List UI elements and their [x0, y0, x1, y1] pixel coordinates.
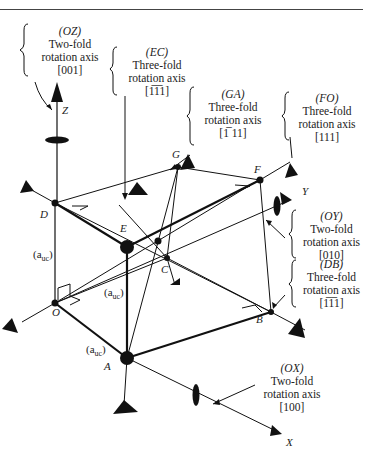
three-fold-symbol — [285, 163, 298, 178]
three-fold-symbol — [51, 82, 63, 102]
three-fold-symbol — [128, 182, 148, 195]
annotation-direction: [1̅1̅1] — [294, 297, 369, 310]
two-fold-symbol-y — [274, 196, 281, 216]
vertex-D — [52, 200, 59, 207]
edge-GF — [178, 167, 260, 180]
diag-DB — [55, 203, 271, 312]
vertex-C — [164, 255, 170, 261]
vertex-label-E: E — [120, 222, 127, 234]
annotation-type: Two-fold — [252, 375, 332, 388]
two-fold-symbol-x — [193, 384, 200, 406]
three-fold-symbol — [288, 318, 305, 338]
annotation-direction: [001] — [30, 64, 110, 77]
vertex-A — [120, 351, 134, 365]
annotation-desc: rotation axis — [294, 236, 369, 249]
edge-label-front: (auc) — [86, 343, 106, 358]
y-axis-label: Y — [302, 185, 308, 197]
vertex-label-F: F — [254, 163, 261, 175]
three-fold-symbol — [2, 318, 18, 333]
annotation-direction: [100] — [252, 401, 332, 414]
annotation-GA: (GA) Three-fold rotation axis [1̅ 11] — [193, 88, 273, 140]
vertex-F — [257, 177, 264, 184]
annotation-code: (OX) — [252, 362, 332, 375]
diag-GA — [127, 167, 178, 358]
cube-center — [155, 238, 162, 245]
edge-GC — [167, 167, 178, 258]
annotation-code: (FO) — [287, 92, 367, 105]
annotation-direction: [1̅1̅1] — [117, 85, 197, 98]
x-axis-label: X — [286, 436, 293, 448]
edge-label-vertical: (auc) — [33, 248, 53, 263]
annotation-OY: (OY) Two-fold rotation axis [010] — [294, 210, 369, 262]
z-axis-label: Z — [62, 104, 68, 116]
right-angle-mark — [235, 185, 250, 190]
annotation-code: (GA) — [193, 88, 273, 101]
three-fold-symbol — [180, 154, 195, 170]
arrowhead — [272, 302, 277, 309]
vertex-E — [120, 240, 134, 254]
edge-DG — [55, 167, 178, 203]
annotation-desc: rotation axis — [294, 284, 369, 297]
vertex-G — [175, 164, 181, 170]
annotation-FO: (FO) Three-fold rotation axis [111] — [287, 92, 367, 144]
annotation-desc: rotation axis — [30, 51, 110, 64]
vertex-label-A: A — [104, 360, 111, 372]
annotation-OZ: (OZ) Two-fold rotation axis [001] — [30, 25, 110, 77]
diag-A-ext — [124, 358, 127, 405]
annotation-desc: rotation axis — [117, 72, 197, 85]
arrowhead — [122, 193, 128, 200]
bracket-OZ — [20, 24, 28, 76]
three-fold-symbol — [280, 192, 292, 205]
three-fold-symbol — [20, 180, 34, 193]
three-fold-symbol — [113, 400, 138, 414]
bracket-EC — [110, 47, 117, 95]
annotation-desc: rotation axis — [287, 118, 367, 131]
annotation-type: Two-fold — [30, 38, 110, 51]
vertex-label-O: O — [52, 306, 60, 318]
edge-FB — [260, 180, 271, 312]
arrowhead — [213, 399, 220, 405]
three-fold-symbol — [270, 425, 282, 436]
annotation-code: (OY) — [294, 210, 369, 223]
three-fold-symbol — [170, 278, 180, 285]
vertex-label-D: D — [40, 208, 48, 220]
annotation-type: Two-fold — [294, 223, 369, 236]
edge-label-depth: (auc) — [104, 286, 124, 301]
right-angle-mark — [72, 206, 88, 210]
vertex-label-G: G — [172, 148, 180, 160]
annotation-type: Three-fold — [287, 105, 367, 118]
annotation-code: (EC) — [117, 46, 197, 59]
annotation-code: (DB) — [294, 258, 369, 271]
right-angle-mark — [70, 296, 80, 305]
two-fold-symbol-z — [45, 137, 69, 144]
vertex-label-C: C — [161, 263, 168, 275]
vertex-B — [268, 309, 274, 315]
annotation-type: Three-fold — [117, 59, 197, 72]
annotation-direction: [111] — [287, 131, 367, 144]
annotation-desc: rotation axis — [252, 388, 332, 401]
annotation-type: Three-fold — [294, 271, 369, 284]
annotation-direction: [1̅ 11] — [193, 127, 273, 140]
diag-O-ext — [22, 303, 55, 322]
annotation-DB: (DB) Three-fold rotation axis [1̅1̅1] — [294, 258, 369, 310]
annotation-code: (OZ) — [30, 25, 110, 38]
annotation-type: Three-fold — [193, 101, 273, 114]
annotation-OX: (OX) Two-fold rotation axis [100] — [252, 362, 332, 414]
vertex-label-B: B — [256, 313, 263, 325]
edge-AB — [127, 312, 271, 358]
annotation-EC: (EC) Three-fold rotation axis [1̅1̅1] — [117, 46, 197, 98]
edge-DE — [55, 203, 127, 247]
annotation-desc: rotation axis — [193, 114, 273, 127]
